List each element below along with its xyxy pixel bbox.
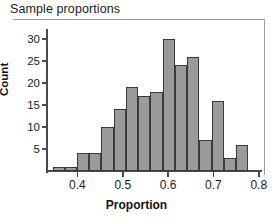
y-axis-tick-label: 5 bbox=[16, 143, 40, 155]
histogram-bar bbox=[138, 96, 150, 171]
x-axis-title: Proportion bbox=[0, 198, 273, 212]
histogram-bar bbox=[187, 57, 199, 171]
histogram-bar bbox=[199, 140, 211, 171]
x-axis-tick bbox=[213, 172, 215, 177]
histogram-bar bbox=[150, 92, 162, 171]
histogram-bar bbox=[53, 167, 65, 171]
y-axis-tick bbox=[42, 148, 47, 150]
histogram-bar bbox=[65, 167, 77, 171]
y-axis-tick bbox=[42, 126, 47, 128]
x-axis-tick-label: 0.8 bbox=[250, 178, 267, 192]
y-axis-tick-label: 10 bbox=[16, 121, 40, 133]
y-axis-tick bbox=[42, 104, 47, 106]
histogram-bar bbox=[126, 87, 138, 171]
histogram-bar bbox=[236, 145, 248, 171]
x-axis-tick bbox=[122, 172, 124, 177]
x-axis-tick bbox=[258, 172, 260, 177]
x-axis-tick-label: 0.5 bbox=[114, 178, 131, 192]
histogram-bar bbox=[212, 101, 224, 171]
histogram-bar bbox=[175, 65, 187, 171]
histogram-bar bbox=[224, 158, 236, 171]
y-axis-tick bbox=[42, 60, 47, 62]
histogram-figure: Sample proportions Count 51015202530 0.4… bbox=[0, 0, 273, 222]
y-axis-tick-label: 15 bbox=[16, 99, 40, 111]
y-axis-tick-labels: 51015202530 bbox=[12, 0, 40, 222]
bars-container bbox=[48, 32, 261, 171]
y-axis-tick-label: 25 bbox=[16, 55, 40, 67]
x-axis-tick-label: 0.6 bbox=[160, 178, 177, 192]
histogram-bar bbox=[77, 153, 89, 171]
x-axis-tick-label: 0.7 bbox=[205, 178, 222, 192]
histogram-bar bbox=[89, 153, 101, 171]
y-axis-title: Count bbox=[0, 63, 10, 96]
histogram-bar bbox=[163, 39, 175, 171]
x-axis-tick bbox=[77, 172, 79, 177]
y-axis-tick-label: 20 bbox=[16, 77, 40, 89]
histogram-bar bbox=[114, 109, 126, 171]
histogram-bar bbox=[101, 127, 113, 171]
y-axis-tick-label: 30 bbox=[16, 33, 40, 45]
x-axis-tick-label: 0.4 bbox=[69, 178, 86, 192]
y-axis-tick bbox=[42, 82, 47, 84]
y-axis-tick bbox=[42, 38, 47, 40]
x-axis-tick bbox=[167, 172, 169, 177]
